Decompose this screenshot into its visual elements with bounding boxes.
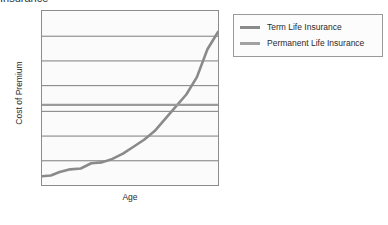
legend-swatch-icon — [240, 42, 260, 45]
y-axis-label: Cost of Premium — [14, 33, 24, 153]
chart-page: Insurance Cost of Premium Age Term Life … — [0, 0, 388, 225]
plot-svg — [42, 11, 218, 185]
gridlines — [42, 36, 218, 161]
legend-item-permanent-life: Permanent Life Insurance — [240, 36, 376, 50]
plot-area — [41, 10, 219, 186]
data-series — [42, 32, 218, 176]
legend-label: Term Life Insurance — [267, 22, 342, 32]
chart-legend: Term Life Insurance Permanent Life Insur… — [233, 14, 383, 57]
legend-item-term-life: Term Life Insurance — [240, 20, 376, 34]
x-axis-label: Age — [41, 192, 219, 202]
legend-label: Permanent Life Insurance — [267, 38, 364, 48]
legend-swatch-icon — [240, 26, 260, 29]
chart-title: Insurance — [0, 0, 180, 5]
